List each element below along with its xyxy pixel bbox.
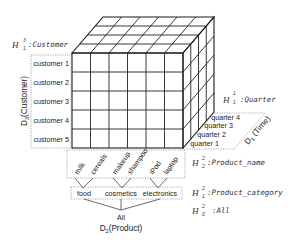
product-member: milk (72, 160, 87, 176)
time-dimension: quarter 4 quarter 3 quarter 2 quarter 1 … (183, 90, 276, 149)
product-member: shampoo (125, 147, 149, 176)
svg-text:2: 2 (201, 155, 205, 161)
quarter-member: quarter 1 (190, 139, 219, 148)
product-hierarchy-all: H 2 0 :All (191, 203, 230, 217)
customer-member: customer 2 (33, 78, 69, 87)
cube-front-face (72, 53, 183, 148)
cube-top-face (72, 17, 214, 53)
customer-dimension: customer 1 customer 2 customer 3 custome… (11, 37, 71, 148)
time-hierarchy-label: H 1 1 :Quarter (222, 90, 276, 105)
customer-member: customer 1 (33, 59, 69, 68)
svg-text:H: H (191, 206, 199, 216)
olap-cube-diagram: customer 1 customer 2 customer 3 custome… (0, 0, 298, 248)
customer-axis-label: D3(Customer) (20, 76, 30, 126)
svg-text::Product_name: :Product_name (207, 158, 265, 167)
svg-text:H: H (11, 40, 19, 50)
category-member: electronics (143, 189, 178, 198)
svg-text:1: 1 (233, 99, 236, 105)
product-dimension: milk cereals makeup shampoo iPod laptop … (67, 147, 283, 234)
customer-member: customer 5 (33, 135, 69, 144)
time-axis-label: D1 (Time) (243, 114, 273, 147)
category-tree-connectors (84, 199, 160, 210)
svg-text:1: 1 (233, 90, 236, 96)
quarter-member: quarter 3 (204, 121, 233, 130)
quarter-member: quarter 2 (197, 130, 226, 139)
svg-text:2: 2 (201, 185, 205, 191)
svg-text:H: H (191, 158, 199, 168)
svg-text:H: H (222, 95, 230, 105)
product-root: All (117, 213, 125, 222)
svg-text::Product_category: :Product_category (207, 188, 283, 197)
product-hierarchy-name: H 2 2 :Product_name (191, 155, 265, 169)
svg-text:D3(Customer): D3(Customer) (20, 76, 30, 126)
product-member: iPod (147, 159, 163, 176)
svg-text:1: 1 (23, 45, 26, 51)
svg-text:D1 (Time): D1 (Time) (243, 114, 273, 147)
svg-text:H: H (191, 188, 199, 198)
svg-text:0: 0 (202, 211, 205, 217)
product-tree-connectors (75, 178, 167, 188)
svg-text::Quarter: :Quarter (240, 95, 276, 104)
svg-text::Customer: :Customer (28, 40, 69, 49)
product-hierarchy-category: H 2 1 :Product_category (191, 185, 283, 199)
customer-member: customer 4 (33, 116, 69, 125)
product-member: cereals (88, 152, 109, 176)
svg-text:1: 1 (202, 193, 205, 199)
customer-member: customer 3 (33, 97, 69, 106)
svg-text:2: 2 (201, 163, 205, 169)
data-cube (72, 17, 214, 148)
customer-hierarchy-label: H 3 1 :Customer (11, 37, 69, 51)
svg-text:2: 2 (201, 203, 205, 209)
svg-text:3: 3 (23, 37, 26, 43)
category-member: cosmetics (105, 189, 137, 198)
product-member: laptop (161, 155, 180, 176)
product-axis-label: D2(Product) (100, 224, 143, 234)
svg-text::All: :All (212, 206, 230, 215)
category-member: food (77, 189, 91, 198)
